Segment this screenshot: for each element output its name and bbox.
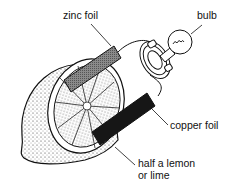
bulb-label: bulb [197, 10, 217, 21]
lemon-battery-illustration [0, 0, 233, 192]
copper-foil-label: copper foil [170, 120, 218, 131]
bulb-icon [134, 30, 192, 84]
zinc-foil-label: zinc foil [63, 10, 98, 21]
lemon-half [21, 49, 136, 164]
lemon-label-line1: half a lemon [138, 158, 195, 169]
lemon-label-line2: or lime [138, 170, 170, 181]
